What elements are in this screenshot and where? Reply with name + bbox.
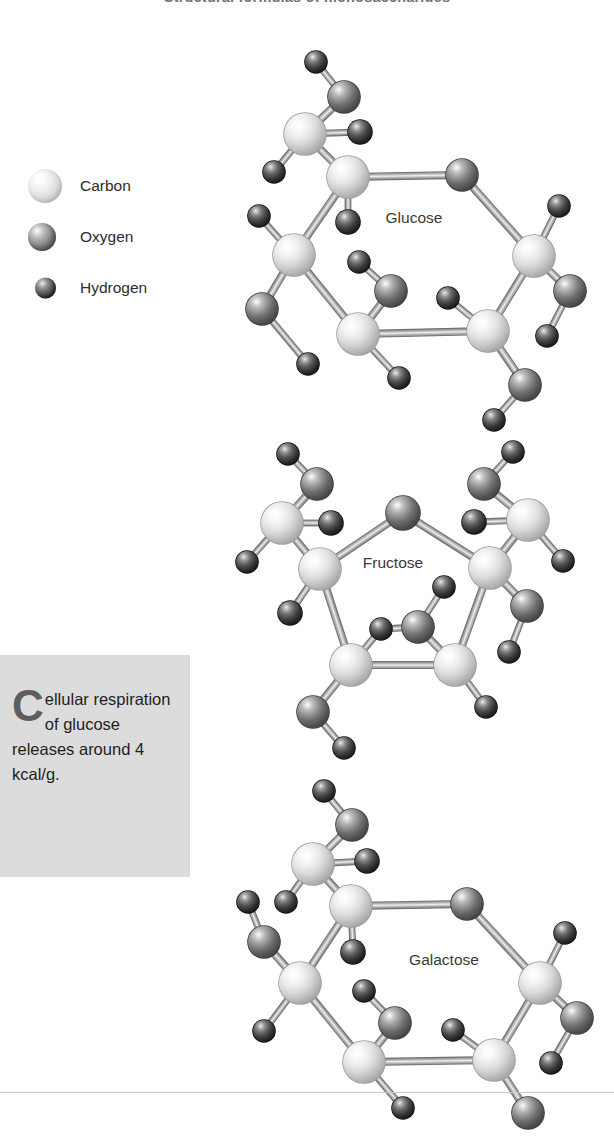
chemical-bond	[446, 295, 490, 333]
fact-callout-box: Cellular respiration of glucose releases…	[0, 655, 190, 877]
chemical-bond	[348, 627, 383, 667]
atom-hydrogen	[547, 194, 571, 218]
legend-item-hydrogen: Hydrogen	[28, 262, 208, 313]
carbon-atom-icon	[28, 169, 62, 203]
chemical-bond	[313, 858, 367, 868]
atom-hydrogen	[436, 286, 460, 310]
atom-hydrogen	[274, 890, 298, 914]
chemical-bond	[287, 567, 323, 615]
chemical-bond	[310, 662, 354, 714]
chemical-bond	[279, 481, 320, 525]
atom-carbon	[472, 1038, 516, 1082]
chemical-bond	[491, 383, 527, 423]
atom-carbon	[260, 501, 304, 545]
atom-hydrogen	[277, 600, 303, 626]
chemical-bond	[310, 861, 354, 908]
atom-carbon	[298, 547, 342, 591]
chemical-bond	[548, 1016, 580, 1064]
callout-text: Cellular respiration of glucose releases…	[12, 687, 180, 787]
chemical-bond	[282, 520, 331, 527]
atom-hydrogen	[340, 939, 366, 965]
chemical-bond	[415, 585, 447, 629]
chemical-bond	[464, 901, 543, 985]
chemical-bond	[452, 663, 488, 709]
atom-hydrogen	[347, 119, 373, 145]
atom-oxygen	[560, 1001, 594, 1035]
atom-hydrogen	[296, 352, 320, 376]
atom-hydrogen	[318, 510, 344, 536]
atom-hydrogen	[332, 736, 356, 760]
page-title: Structural formulas of monosaccharides	[0, 0, 614, 5]
chemical-bond	[481, 450, 515, 487]
atom-oxygen	[511, 1096, 545, 1130]
atom-hydrogen	[387, 366, 411, 390]
atom-hydrogen	[432, 575, 456, 599]
atom-oxygen	[450, 887, 484, 921]
atom-carbon	[291, 842, 335, 886]
atom-oxygen	[247, 925, 281, 959]
chemical-bond	[259, 253, 298, 311]
atom-oxygen	[296, 695, 330, 729]
chemical-bond	[485, 254, 538, 333]
chemical-bond	[345, 177, 352, 222]
legend-label-hydrogen: Hydrogen	[80, 279, 147, 297]
atom-oxygen	[508, 368, 542, 402]
chemical-bond	[316, 568, 355, 666]
atom-oxygen	[467, 467, 501, 501]
chemical-bond	[244, 521, 284, 565]
atom-hydrogen	[276, 442, 300, 466]
chemical-bond	[279, 520, 323, 571]
atom-carbon	[468, 546, 512, 590]
chemical-bond	[358, 327, 488, 338]
chemical-bond	[491, 981, 544, 1062]
atom-carbon	[518, 961, 562, 1005]
atom-carbon	[283, 112, 327, 156]
atom-hydrogen	[497, 640, 521, 664]
legend-item-oxygen: Oxygen	[28, 211, 208, 262]
atom-oxygen	[553, 274, 587, 308]
chemical-bond	[531, 204, 562, 257]
chemical-bond	[302, 131, 351, 180]
chemical-bond	[351, 661, 455, 669]
atom-hydrogen	[335, 209, 361, 235]
atom-oxygen	[335, 808, 369, 842]
atom-carbon	[512, 234, 556, 278]
chemical-bond	[348, 906, 357, 952]
chemical-bond	[459, 172, 537, 258]
atom-hydrogen	[551, 549, 575, 573]
legend-label-carbon: Carbon	[80, 177, 131, 195]
atom-hydrogen	[304, 50, 328, 74]
atom-oxygen	[385, 495, 421, 531]
atom-oxygen	[245, 292, 279, 326]
atom-hydrogen	[252, 1019, 276, 1043]
atom-carbon	[272, 233, 316, 277]
chemical-bond	[487, 518, 531, 571]
atom-carbon	[329, 643, 373, 687]
chemical-bond	[291, 252, 361, 336]
chemical-bond	[531, 253, 573, 294]
chemical-bond	[355, 289, 394, 337]
chemical-bond	[361, 1060, 405, 1110]
chemical-bond	[313, 60, 346, 99]
atom-hydrogen	[441, 1018, 465, 1042]
legend-label-oxygen: Oxygen	[80, 228, 133, 246]
atom-oxygen	[378, 1006, 412, 1040]
atom-hydrogen	[461, 509, 487, 535]
chemical-bond	[256, 214, 296, 258]
atom-oxygen	[327, 80, 361, 114]
chemical-bond	[351, 900, 467, 910]
legend: Carbon Oxygen Hydrogen	[28, 160, 208, 313]
atom-hydrogen	[352, 979, 376, 1003]
atom-hydrogen	[247, 204, 271, 228]
chemical-bond	[348, 171, 462, 181]
atom-carbon	[326, 155, 370, 199]
chemical-bond	[451, 567, 494, 667]
atom-carbon	[506, 498, 550, 542]
chemical-bond	[537, 931, 568, 984]
chemical-bond	[491, 1058, 532, 1115]
legend-item-carbon: Carbon	[28, 160, 208, 211]
chemical-bond	[302, 94, 347, 137]
chemical-bond	[297, 904, 355, 985]
chemical-bond	[362, 989, 398, 1026]
atom-oxygen	[300, 467, 334, 501]
